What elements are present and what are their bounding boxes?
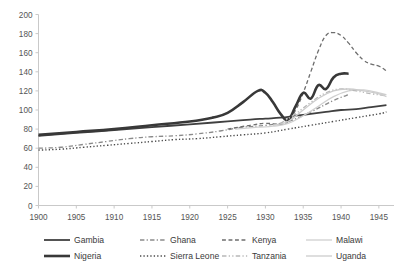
legend-label: Ghana [170, 235, 196, 245]
y-tick-label: 140 [19, 68, 33, 77]
legend-label: Kenya [252, 235, 277, 245]
y-tick-label: 20 [23, 182, 33, 191]
y-tick-label: 180 [19, 30, 33, 39]
legend-label: Sierra Leone [170, 251, 219, 261]
y-tick-label: 100 [19, 106, 33, 115]
chart-legend: GambiaGhanaKenyaMalawiNigeriaSierra Leon… [44, 235, 366, 261]
x-tick-label: 1945 [370, 213, 389, 222]
y-tick-label: 40 [23, 163, 33, 172]
legend-label: Malawi [336, 235, 363, 245]
y-axis-tick-labels: 020406080100120140160180200 [19, 11, 33, 211]
chart-axes [36, 15, 395, 209]
x-tick-label: 1905 [67, 213, 86, 222]
line-chart: 020406080100120140160180200 190019051910… [0, 0, 400, 271]
x-tick-label: 1910 [105, 213, 124, 222]
y-tick-label: 200 [19, 11, 33, 20]
chart-container: 020406080100120140160180200 190019051910… [0, 0, 400, 271]
legend-label: Tanzania [252, 251, 287, 261]
x-tick-label: 1925 [218, 213, 237, 222]
series-line-malawi [235, 90, 386, 129]
legend-label: Gambia [74, 235, 104, 245]
x-axis-tick-labels: 1900190519101915192019251930193519401945 [29, 213, 388, 222]
x-tick-label: 1940 [332, 213, 351, 222]
y-tick-label: 0 [28, 202, 33, 211]
y-tick-label: 120 [19, 87, 33, 96]
series-line-nigeria [39, 73, 349, 134]
y-tick-label: 60 [23, 144, 33, 153]
legend-label: Nigeria [74, 251, 101, 261]
x-tick-label: 1915 [143, 213, 162, 222]
y-tick-label: 160 [19, 49, 33, 58]
x-tick-label: 1930 [256, 213, 275, 222]
x-tick-label: 1900 [29, 213, 48, 222]
x-tick-label: 1935 [294, 213, 313, 222]
y-tick-label: 80 [23, 125, 33, 134]
x-tick-label: 1920 [181, 213, 200, 222]
chart-series [39, 32, 387, 150]
legend-label: Uganda [336, 251, 366, 261]
